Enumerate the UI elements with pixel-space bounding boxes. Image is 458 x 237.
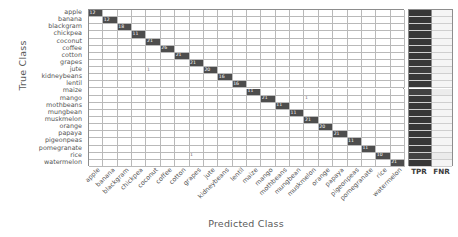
matrix-cell [319,67,333,74]
matrix-cell [233,110,247,117]
matrix-cell [190,46,204,53]
matrix-cell [247,60,261,67]
matrix-cell [204,110,218,117]
matrix-cell [376,31,390,38]
matrix-cell [204,103,218,110]
matrix-cell [348,110,362,117]
matrix-cell [118,138,132,145]
matrix-cell [204,31,218,38]
matrix-cell [362,96,376,103]
matrix-cell [319,53,333,60]
matrix-cell [190,24,204,31]
matrix-cell [161,10,175,17]
matrix-cell [175,10,189,17]
matrix-cell [233,103,247,110]
matrix-cell [362,89,376,96]
matrix-cell [247,10,261,17]
matrix-cell [103,138,117,145]
matrix-cell [304,124,318,131]
matrix-cell [146,131,160,138]
matrix-cell [118,10,132,17]
matrix-cell [233,17,247,24]
matrix-cell [218,117,232,124]
matrix-cell [391,53,405,60]
matrix-cell [89,39,103,46]
matrix-cell-diagonal: 26 [161,46,175,53]
matrix-cell [233,117,247,124]
matrix-cell [362,74,376,81]
matrix-cell [276,10,290,17]
matrix-cell [103,89,117,96]
matrix-cell [319,31,333,38]
matrix-cell [319,131,333,138]
matrix-cell [290,24,304,31]
matrix-cell [146,117,160,124]
matrix-cell [103,53,117,60]
fnr-cell [431,96,453,103]
matrix-cell [175,74,189,81]
matrix-cell [247,39,261,46]
matrix-cell [362,17,376,24]
matrix-cell [290,10,304,17]
matrix-cell [89,117,103,124]
matrix-cell [175,103,189,110]
matrix-cell [233,89,247,96]
matrix-cell [132,10,146,17]
matrix-cell [132,96,146,103]
matrix-cell [132,138,146,145]
tpr-cell [409,60,431,67]
matrix-cell [89,96,103,103]
matrix-cell [218,60,232,67]
matrix-cell [319,17,333,24]
matrix-cell [376,81,390,88]
matrix-cell [391,74,405,81]
fnr-cell [431,46,453,53]
matrix-cell [391,17,405,24]
matrix-cell [290,89,304,96]
tpr-fnr-column-block [408,9,453,166]
matrix-cell [89,17,103,24]
matrix-cell [319,110,333,117]
matrix-cell [233,96,247,103]
matrix-cell [218,17,232,24]
matrix-cell [118,74,132,81]
matrix-cell [103,81,117,88]
matrix-cell [132,53,146,60]
matrix-cell [132,39,146,46]
matrix-cell [218,24,232,31]
fnr-cell [431,124,453,131]
matrix-cell [118,110,132,117]
matrix-cell [376,39,390,46]
matrix-cell [362,67,376,74]
matrix-cell [204,131,218,138]
matrix-cell [348,103,362,110]
matrix-cell [261,138,275,145]
matrix-cell [190,67,204,74]
matrix-cell [319,46,333,53]
matrix-cell [175,46,189,53]
matrix-cell [146,74,160,81]
matrix-cell [89,60,103,67]
fnr-cell [431,131,453,138]
matrix-cell [118,89,132,96]
matrix-cell [391,110,405,117]
matrix-cell [190,31,204,38]
matrix-cell [190,89,204,96]
matrix-cell [261,110,275,117]
matrix-cell [304,67,318,74]
matrix-cell [247,103,261,110]
matrix-cell [161,53,175,60]
matrix-cell [304,31,318,38]
matrix-cell [218,89,232,96]
matrix-cell [233,31,247,38]
matrix-cell [190,96,204,103]
matrix-cell [290,138,304,145]
matrix-cell [348,39,362,46]
matrix-cell [376,53,390,60]
matrix-cell [276,53,290,60]
matrix-cell [304,60,318,67]
matrix-cell [348,81,362,88]
matrix-cell [376,103,390,110]
fnr-cell [431,81,453,88]
matrix-cell [161,117,175,124]
